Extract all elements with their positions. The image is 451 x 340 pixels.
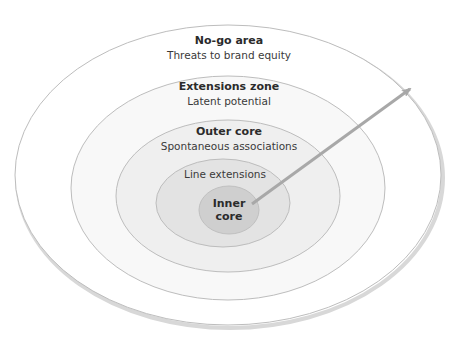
extensions-zone-subtitle: Latent potential: [179, 94, 280, 108]
extensions-zone-label: Extensions zone Latent potential: [179, 80, 280, 108]
brand-zones-diagram: No-go area Threats to brand equity Exten…: [0, 0, 451, 340]
line-extensions-label: Line extensions: [184, 167, 266, 181]
no-go-area-title: No-go area: [167, 34, 291, 48]
no-go-area-label: No-go area Threats to brand equity: [167, 34, 291, 62]
inner-core-label: Inner core: [213, 197, 246, 223]
no-go-area-subtitle: Threats to brand equity: [167, 48, 291, 62]
outer-core-title: Outer core: [161, 125, 297, 139]
outer-core-label: Outer core Spontaneous associations: [161, 125, 297, 153]
line-extensions-text: Line extensions: [184, 167, 266, 181]
extensions-zone-title: Extensions zone: [179, 80, 280, 94]
outer-core-subtitle: Spontaneous associations: [161, 139, 297, 153]
inner-core-title-line1: Inner: [213, 197, 246, 210]
inner-core-title-line2: core: [213, 210, 246, 223]
